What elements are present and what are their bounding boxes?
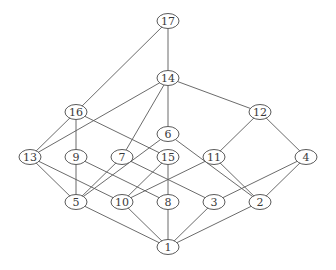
node-label: 12 (253, 106, 267, 119)
node-label: 3 (211, 196, 218, 209)
node-label: 11 (207, 151, 221, 164)
node-5: 5 (65, 195, 87, 210)
edge-6-5 (76, 134, 168, 202)
diagram-canvas: 1714161261397151145108321 (0, 0, 336, 270)
node-12: 12 (249, 105, 271, 120)
node-13: 13 (19, 150, 41, 165)
node-10: 10 (111, 195, 133, 210)
node-1: 1 (157, 240, 179, 255)
node-label: 8 (165, 196, 172, 209)
node-label: 17 (161, 15, 175, 28)
node-label: 16 (69, 106, 83, 119)
node-label: 6 (165, 128, 172, 141)
node-label: 9 (73, 151, 80, 164)
node-label: 10 (115, 196, 129, 209)
node-label: 15 (161, 151, 175, 164)
node-3: 3 (203, 195, 225, 210)
node-8: 8 (157, 195, 179, 210)
hasse-diagram: 1714161261397151145108321 (0, 0, 336, 270)
node-label: 2 (257, 196, 264, 209)
edge-6-2 (168, 134, 260, 202)
edge-14-7 (122, 78, 168, 157)
edge-4-2 (260, 157, 306, 202)
node-label: 14 (161, 72, 175, 85)
node-11: 11 (203, 150, 225, 165)
node-label: 5 (73, 196, 80, 209)
node-7: 7 (111, 150, 133, 165)
node-4: 4 (295, 150, 317, 165)
node-17: 17 (157, 14, 179, 29)
node-16: 16 (65, 105, 87, 120)
edge-14-12 (168, 78, 260, 112)
node-15: 15 (157, 150, 179, 165)
node-2: 2 (249, 195, 271, 210)
node-6: 6 (157, 127, 179, 142)
node-label: 7 (119, 151, 126, 164)
edge-3-1 (168, 202, 214, 247)
node-14: 14 (157, 71, 179, 86)
node-label: 13 (23, 151, 37, 164)
edge-17-16 (76, 21, 168, 112)
node-label: 4 (303, 151, 310, 164)
node-label: 1 (165, 241, 172, 254)
node-9: 9 (65, 150, 87, 165)
